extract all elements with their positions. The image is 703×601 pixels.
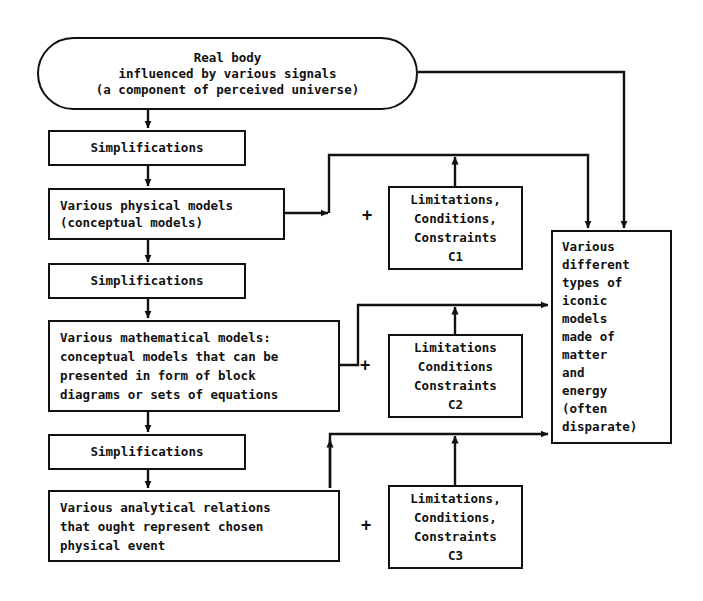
node-mathematical-models[interactable]: Various mathematical models: conceptual … (48, 320, 340, 412)
node-limitations-c1[interactable]: Limitations, Conditions, Constraints C1 (388, 186, 523, 270)
node-simplifications-1-label: Simplifications (91, 140, 204, 156)
node-real-body[interactable]: Real body influenced by various signals … (37, 37, 418, 110)
operator-plus-2: + (360, 355, 370, 375)
node-limitations-c3[interactable]: Limitations, Conditions, Constraints C3 (388, 485, 523, 569)
node-physical-models[interactable]: Various physical models (conceptual mode… (48, 188, 285, 240)
node-simplifications-3[interactable]: Simplifications (48, 434, 246, 470)
node-iconic-models[interactable]: Various different types of iconic models… (551, 230, 672, 444)
operator-plus-3: + (361, 515, 371, 535)
edge-analytical-to-iconic (330, 434, 548, 488)
node-real-body-label: Real body influenced by various signals … (96, 50, 359, 98)
node-analytical-relations-label: Various analytical relations that ought … (60, 498, 271, 555)
node-limitations-c2[interactable]: Limitations Conditions Constraints C2 (388, 334, 523, 418)
node-simplifications-1[interactable]: Simplifications (48, 130, 246, 166)
node-limitations-c1-label: Limitations, Conditions, Constraints C1 (410, 190, 500, 266)
node-simplifications-2[interactable]: Simplifications (48, 263, 246, 299)
node-simplifications-2-label: Simplifications (91, 273, 204, 289)
node-limitations-c2-label: Limitations Conditions Constraints C2 (414, 338, 497, 414)
node-simplifications-3-label: Simplifications (91, 444, 204, 460)
flowchart-canvas: Real body influenced by various signals … (0, 0, 703, 601)
operator-plus-1: + (362, 205, 372, 225)
node-iconic-models-label: Various different types of iconic models… (562, 238, 637, 436)
node-mathematical-models-label: Various mathematical models: conceptual … (60, 328, 278, 404)
node-physical-models-label: Various physical models (conceptual mode… (60, 197, 233, 231)
node-limitations-c3-label: Limitations, Conditions, Constraints C3 (410, 489, 500, 565)
node-analytical-relations[interactable]: Various analytical relations that ought … (48, 490, 340, 562)
